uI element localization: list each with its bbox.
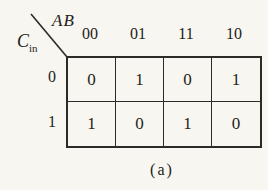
kmap-cell-r1c2: 1 — [164, 102, 212, 146]
row-variable-subscript: in — [29, 42, 38, 54]
kmap-grid: 0 1 0 1 1 0 1 0 — [66, 56, 262, 148]
row-header-0: 0 — [34, 56, 56, 101]
figure-caption: (a) — [66, 161, 258, 179]
row-variable-label: Cin — [17, 31, 38, 54]
kmap-cell-r1c0: 1 — [68, 102, 116, 146]
kmap-cell-r1c1: 0 — [116, 102, 164, 146]
col-header-11: 11 — [162, 25, 210, 43]
kmap-cell-r0c3: 1 — [212, 58, 260, 102]
col-header-00: 00 — [66, 25, 114, 43]
kmap-cell-r1c3: 0 — [212, 102, 260, 146]
col-header-10: 10 — [210, 25, 258, 43]
row-header-1: 1 — [34, 101, 56, 146]
row-variable-main: C — [17, 31, 29, 51]
column-headers: 00 01 11 10 — [66, 25, 258, 43]
kmap-cell-r0c0: 0 — [68, 58, 116, 102]
kmap-figure: AB Cin 00 01 11 10 0 1 0 1 0 1 1 0 1 0 (… — [0, 0, 268, 190]
kmap-cell-r0c2: 0 — [164, 58, 212, 102]
kmap-cell-r0c1: 1 — [116, 58, 164, 102]
row-headers: 0 1 — [34, 56, 56, 146]
col-header-01: 01 — [114, 25, 162, 43]
